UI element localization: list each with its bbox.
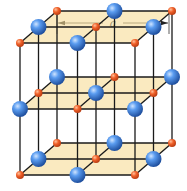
small-ion <box>111 73 119 81</box>
small-ion <box>168 7 176 15</box>
small-ion <box>168 139 176 147</box>
large-ion <box>88 85 104 101</box>
large-ion <box>127 101 143 117</box>
small-ion <box>16 39 24 47</box>
small-ion <box>53 139 61 147</box>
arrowhead-right-icon <box>161 21 168 25</box>
large-ion <box>164 69 180 85</box>
crystal-lattice-diagram: a <box>0 0 187 191</box>
small-ion <box>74 105 82 113</box>
small-ion <box>92 23 100 31</box>
large-ion <box>146 151 162 167</box>
large-ion <box>31 151 47 167</box>
large-ion <box>49 69 65 85</box>
large-ion <box>12 101 28 117</box>
large-ion <box>70 35 86 51</box>
small-ion <box>131 39 139 47</box>
large-ion <box>70 167 86 183</box>
small-ion <box>16 171 24 179</box>
lattice-ions <box>12 3 180 183</box>
small-ion <box>131 171 139 179</box>
small-ion <box>92 155 100 163</box>
large-ion <box>146 19 162 35</box>
large-ion <box>107 3 123 19</box>
small-ion <box>150 89 158 97</box>
large-ion <box>31 19 47 35</box>
small-ion <box>35 89 43 97</box>
large-ion <box>107 135 123 151</box>
small-ion <box>53 7 61 15</box>
lattice-svg: a <box>0 0 187 191</box>
